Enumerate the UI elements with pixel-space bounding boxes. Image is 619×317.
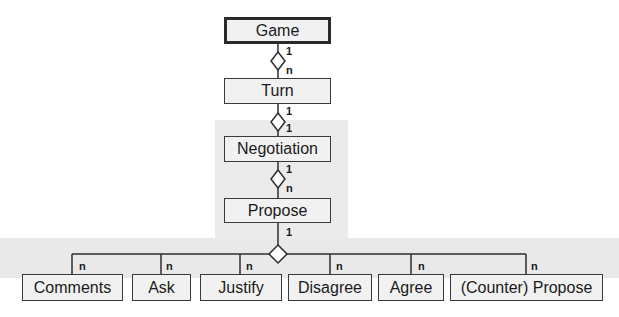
node-agree: Agree bbox=[378, 274, 444, 301]
multiplicity-label: n bbox=[246, 260, 253, 272]
multiplicity-label: 1 bbox=[286, 226, 292, 238]
node-disagree: Disagree bbox=[288, 274, 372, 301]
multiplicity-label: 1 bbox=[286, 122, 292, 134]
aggregation-diamond-icon bbox=[271, 170, 285, 188]
multiplicity-label: n bbox=[286, 182, 293, 194]
node-propose: Propose bbox=[224, 198, 331, 223]
multiplicity-label: 1 bbox=[286, 45, 292, 57]
multiplicity-label: n bbox=[166, 260, 173, 272]
multiplicity-label: n bbox=[418, 260, 425, 272]
multiplicity-label: 1 bbox=[286, 105, 292, 117]
node-turn: Turn bbox=[224, 78, 331, 104]
aggregation-diamond-icon bbox=[271, 113, 285, 131]
multiplicity-label: 1 bbox=[286, 163, 292, 175]
aggregation-diamond-icon bbox=[269, 245, 287, 263]
node-ask: Ask bbox=[132, 274, 191, 301]
multiplicity-label: n bbox=[286, 64, 293, 76]
node-justify: Justify bbox=[200, 274, 282, 301]
multiplicity-label: n bbox=[79, 260, 86, 272]
multiplicity-label: n bbox=[336, 260, 343, 272]
multiplicity-label: n bbox=[531, 260, 538, 272]
aggregation-diamond-icon bbox=[271, 52, 285, 70]
node-counter-propose: (Counter) Propose bbox=[450, 274, 603, 301]
node-negotiation: Negotiation bbox=[224, 136, 331, 162]
node-game: Game bbox=[224, 17, 331, 44]
node-comments: Comments bbox=[22, 274, 123, 301]
